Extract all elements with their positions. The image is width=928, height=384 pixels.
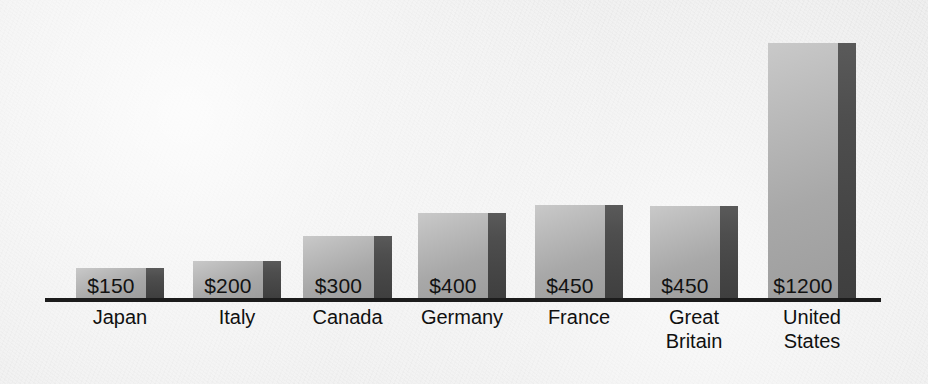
- bar-value-label-italy: $200: [193, 275, 263, 296]
- bar-side-germany: [488, 213, 506, 298]
- bar-side-france: [605, 205, 623, 298]
- bar-value-label-japan: $150: [76, 275, 146, 296]
- bar-value-label-germany: $400: [418, 275, 488, 296]
- category-label-great-britain: Great Britain: [630, 306, 758, 353]
- bar-chart: $150$200$300$400$450$450$1200 JapanItaly…: [0, 0, 928, 384]
- category-label-germany: Germany: [396, 306, 528, 330]
- category-label-japan: Japan: [56, 306, 184, 330]
- bar-side-canada: [374, 236, 392, 298]
- bar-side-great-britain: [720, 206, 738, 298]
- bar-value-label-france: $450: [535, 275, 605, 296]
- bar-face-united-states: [768, 43, 838, 298]
- bar-france[interactable]: $450: [535, 205, 623, 298]
- bar-side-italy: [263, 261, 281, 298]
- bar-value-label-united-states: $1200: [768, 275, 838, 296]
- bar-value-label-canada: $300: [303, 275, 374, 296]
- bar-side-united-states: [838, 43, 856, 298]
- bar-value-label-great-britain: $450: [650, 275, 720, 296]
- bar-great-britain[interactable]: $450: [650, 206, 738, 298]
- category-label-france: France: [515, 306, 643, 330]
- bar-side-japan: [146, 268, 164, 298]
- bar-japan[interactable]: $150: [76, 268, 164, 298]
- category-label-united-states: United States: [748, 306, 876, 353]
- bar-united-states[interactable]: $1200: [768, 43, 856, 298]
- x-axis-line: [45, 298, 881, 302]
- category-label-canada: Canada: [283, 306, 412, 330]
- bar-canada[interactable]: $300: [303, 236, 392, 298]
- bar-germany[interactable]: $400: [418, 213, 506, 298]
- category-label-italy: Italy: [173, 306, 301, 330]
- bar-italy[interactable]: $200: [193, 261, 281, 298]
